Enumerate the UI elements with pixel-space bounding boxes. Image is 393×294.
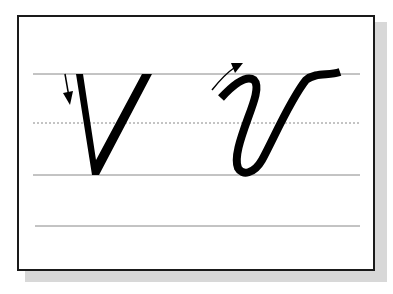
handwriting-guide (0, 0, 393, 294)
print-v-letter (76, 74, 152, 175)
stroke-direction-arrow-icon (63, 74, 73, 105)
cursive-v-letter (221, 72, 340, 173)
